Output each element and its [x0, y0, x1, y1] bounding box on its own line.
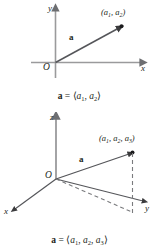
vector-a-arrow-2d [56, 29, 119, 63]
point-label-3d: (a1, a2, a3) [99, 134, 135, 143]
axis-label-y-3d: y [145, 204, 149, 213]
axis-label-z-3d: z [50, 113, 54, 122]
axis-label-x-3d: x [4, 207, 8, 216]
panel-2d-vector: y x O a (a1, a2) a = ⟨a1, a2⟩ [0, 0, 159, 112]
axis-label-y-2d: y [48, 4, 52, 13]
axis-y-line-3d [56, 179, 143, 201]
point-label-2d: (a1, a2) [101, 8, 125, 17]
origin-label-2d: O [43, 63, 50, 73]
origin-label-3d: O [45, 171, 52, 181]
caption-3d: a = ⟨a1, a2, a3⟩ [0, 236, 159, 246]
axis-x-line-3d [15, 179, 56, 209]
diagram-3d-svg [0, 112, 159, 251]
caption-2d: a = ⟨a1, a2⟩ [0, 92, 159, 102]
vector-a-arrow-3d [56, 154, 129, 179]
vector-component-figure: y x O a (a1, a2) a = ⟨a1, a2⟩ [0, 0, 159, 251]
vector-label-a-2d: a [69, 33, 74, 42]
axis-label-x-2d: x [141, 64, 145, 73]
vector-label-a-3d: a [79, 155, 84, 164]
panel-3d-vector: z y x O a (a1, a2, a3) a = ⟨a1, a2, a3⟩ [0, 112, 159, 251]
vector-head-point-2d [120, 24, 124, 28]
